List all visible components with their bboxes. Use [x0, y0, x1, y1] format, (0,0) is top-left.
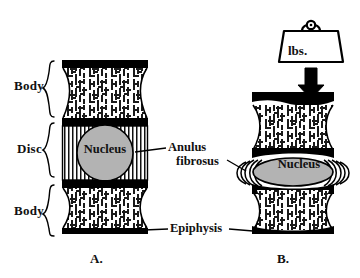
vertebral-body-lower-b: [250, 190, 338, 234]
label-epiphysis: Epiphysis: [170, 222, 222, 235]
caption-panel-a: A.: [90, 252, 103, 265]
label-weight-lbs: lbs.: [288, 44, 307, 57]
epiphysis-plate-top-a: [62, 60, 148, 68]
vertebral-body-lower-a: [60, 186, 152, 232]
label-body-lower-a: Body: [14, 204, 44, 217]
label-body-upper-a: Body: [14, 79, 44, 92]
label-nucleus-b: Nucleus: [265, 158, 333, 171]
label-nucleus-a: Nucleus: [76, 143, 134, 156]
epiphysis-plate-bottom-a: [62, 228, 148, 234]
epiphysis-plate-a-lower-disc: [62, 180, 148, 188]
label-disc-a: Disc: [17, 142, 42, 155]
caption-panel-b: B.: [277, 252, 289, 265]
vertebral-body-upper-b: [250, 100, 338, 154]
vertebral-body-upper-a: [60, 64, 152, 124]
label-anulus-fibrosus-line1: Anulus: [168, 141, 206, 154]
label-anulus-fibrosus-line2: fibrosus: [176, 155, 219, 168]
spine-load-diagram: [0, 0, 360, 278]
